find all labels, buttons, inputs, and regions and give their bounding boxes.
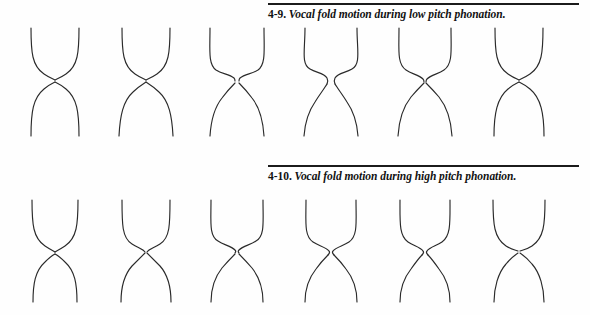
caption-text-4-10: 4-10. Vocal fold motion during high pitc…: [268, 170, 579, 183]
vocal-fold-diagram-icon: [288, 26, 374, 138]
caption-block-4-9: 4-9. Vocal fold motion during low pitch …: [268, 3, 579, 21]
vocal-fold-frame-high-5: [382, 196, 468, 308]
vocal-fold-frame-low-1: [12, 26, 98, 138]
figure-caption-4-10: Vocal fold motion during high pitch phon…: [295, 170, 517, 182]
vocal-fold-frame-high-6: [476, 196, 562, 308]
vocal-fold-diagram-icon: [12, 26, 98, 138]
caption-block-4-10: 4-10. Vocal fold motion during high pitc…: [268, 165, 579, 183]
figure-caption-4-9: Vocal fold motion during low pitch phona…: [289, 8, 506, 20]
vocal-fold-frame-high-3: [194, 196, 280, 308]
low-pitch-row: [0, 26, 590, 138]
vocal-fold-diagram-icon: [12, 196, 98, 308]
vocal-fold-frame-low-3: [194, 26, 280, 138]
vocal-fold-frame-low-5: [382, 26, 468, 138]
vocal-fold-diagram-icon: [103, 26, 189, 138]
figure-number-4-9: 4-9.: [268, 8, 286, 20]
high-pitch-row: [0, 196, 590, 308]
figure-page: 4-9. Vocal fold motion during low pitch …: [0, 0, 590, 315]
vocal-fold-frame-high-2: [103, 196, 189, 308]
vocal-fold-diagram-icon: [382, 196, 468, 308]
vocal-fold-frame-low-4: [288, 26, 374, 138]
vocal-fold-frame-high-4: [288, 196, 374, 308]
vocal-fold-diagram-icon: [194, 196, 280, 308]
vocal-fold-diagram-icon: [103, 196, 189, 308]
vocal-fold-diagram-icon: [476, 196, 562, 308]
vocal-fold-frame-low-2: [103, 26, 189, 138]
caption-rule: [268, 165, 579, 167]
vocal-fold-frame-high-1: [12, 196, 98, 308]
figure-number-4-10: 4-10.: [268, 170, 292, 182]
caption-rule: [268, 3, 579, 5]
vocal-fold-frame-low-6: [476, 26, 562, 138]
vocal-fold-diagram-icon: [194, 26, 280, 138]
vocal-fold-diagram-icon: [382, 26, 468, 138]
vocal-fold-diagram-icon: [288, 196, 374, 308]
caption-text-4-9: 4-9. Vocal fold motion during low pitch …: [268, 8, 579, 21]
vocal-fold-diagram-icon: [476, 26, 562, 138]
